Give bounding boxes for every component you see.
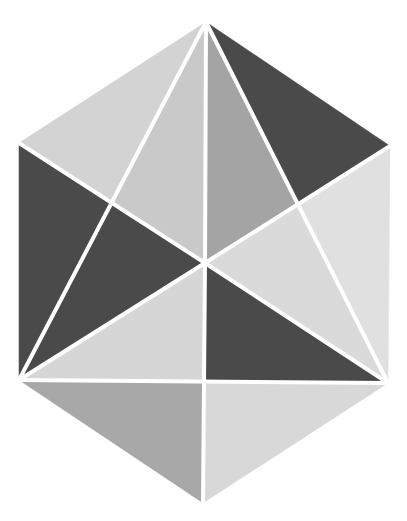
region-bottom-left [19,380,204,503]
line-vertical-top-center [205,22,206,263]
region-bottom-right [203,381,388,503]
hexagon-figure [0,0,407,521]
figure-canvas: Hexagon subdivided into triangles [0,0,407,521]
